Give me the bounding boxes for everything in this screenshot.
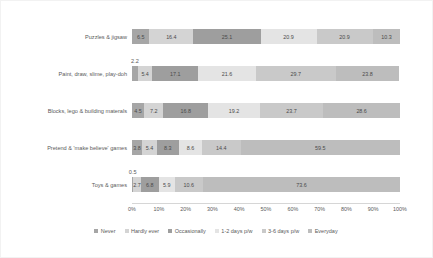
legend-label: Hardly ever xyxy=(131,228,159,234)
segment-callout-label: 0.5 xyxy=(129,169,137,175)
category-label: Paint, draw, slime, play-doh xyxy=(59,70,127,76)
bar-segment: 4.5 xyxy=(132,103,144,118)
x-axis-tick-label: 70% xyxy=(314,206,325,212)
stacked-bar: 4.57.216.819.223.728.6 xyxy=(132,103,400,118)
x-axis: 0%10%20%30%40%50%60%70%80%90%100% xyxy=(132,203,400,217)
bar-segment: 16.4 xyxy=(149,29,193,44)
legend-swatch-icon xyxy=(308,229,312,233)
x-axis-tick-label: 30% xyxy=(207,206,218,212)
x-axis-tick-label: 40% xyxy=(234,206,245,212)
legend-swatch-icon xyxy=(94,229,98,233)
stacked-bar: 2.76.85.910.673.6 xyxy=(132,177,400,192)
bar-row: Pretend & 'make believe' games3.85.48.38… xyxy=(132,140,400,155)
bar-segment: 14.4 xyxy=(202,140,241,155)
legend-item[interactable]: Never xyxy=(94,228,115,234)
bar-segment: 20.9 xyxy=(317,29,373,44)
legend-item[interactable]: Hardly ever xyxy=(125,228,160,234)
stacked-bar: 6.516.425.120.920.910.3 xyxy=(132,29,400,44)
bar-row: Toys & games0.52.76.85.910.673.6 xyxy=(132,177,400,192)
bar-row: Blocks, lego & building materals4.57.216… xyxy=(132,103,400,118)
x-axis-tick-label: 80% xyxy=(341,206,352,212)
bar-segment: 73.6 xyxy=(203,177,400,192)
legend-item[interactable]: Occasionally xyxy=(168,228,206,234)
bar-segment: 2.7 xyxy=(133,177,140,192)
x-axis-tick-label: 10% xyxy=(153,206,164,212)
legend-swatch-icon xyxy=(168,229,172,233)
bar-segment: 29.7 xyxy=(256,66,336,81)
bar-segment: 20.9 xyxy=(261,29,317,44)
chart-legend: NeverHardly everOccasionally1-2 days p/w… xyxy=(0,228,432,234)
legend-label: Never xyxy=(101,228,116,234)
legend-item[interactable]: 1-2 days p/w xyxy=(215,228,253,234)
legend-swatch-icon xyxy=(262,229,266,233)
legend-label: Everyday xyxy=(315,228,338,234)
x-axis-tick-label: 50% xyxy=(261,206,272,212)
legend-label: 1-2 days p/w xyxy=(221,228,252,234)
bar-segment: 21.6 xyxy=(198,66,256,81)
stacked-bar: 5.417.121.629.723.8 xyxy=(132,66,400,81)
x-axis-tick-label: 90% xyxy=(368,206,379,212)
bar-segment: 25.1 xyxy=(193,29,260,44)
bar-segment: 17.1 xyxy=(152,66,198,81)
legend-swatch-icon xyxy=(125,229,129,233)
x-axis-tick-label: 0% xyxy=(128,206,136,212)
bar-segment: 6.5 xyxy=(132,29,149,44)
bar-segment: 8.6 xyxy=(179,140,202,155)
x-axis-line xyxy=(132,203,400,204)
bar-segment: 8.3 xyxy=(157,140,179,155)
bar-segment: 28.6 xyxy=(323,103,400,118)
bar-segment: 5.4 xyxy=(142,140,156,155)
category-label: Toys & games xyxy=(92,181,127,187)
bar-segment: 3.8 xyxy=(132,140,142,155)
stacked-bar: 3.85.48.38.614.459.5 xyxy=(132,140,400,155)
segment-callout-label: 2.2 xyxy=(131,58,139,64)
bar-segment: 10.3 xyxy=(373,29,401,44)
bar-segment: 23.7 xyxy=(260,103,324,118)
x-axis-tick-label: 60% xyxy=(287,206,298,212)
bar-segment: 6.8 xyxy=(141,177,159,192)
bar-segment: 16.8 xyxy=(163,103,208,118)
bar-segment: 19.2 xyxy=(208,103,259,118)
x-axis-tick-label: 100% xyxy=(393,206,407,212)
bar-segment: 59.5 xyxy=(241,140,400,155)
plot-area: Puzzles & jigsaw6.516.425.120.920.910.3P… xyxy=(132,18,400,203)
bar-segment: 5.4 xyxy=(138,66,152,81)
bar-segment: 7.2 xyxy=(144,103,163,118)
bar-row: Paint, draw, slime, play-doh2.25.417.121… xyxy=(132,66,400,81)
bar-segment: 23.8 xyxy=(336,66,400,81)
legend-item[interactable]: Everyday xyxy=(308,228,337,234)
legend-label: Occasionally xyxy=(175,228,206,234)
category-label: Blocks, lego & building materals xyxy=(48,107,127,113)
legend-item[interactable]: 3-6 days p/w xyxy=(262,228,300,234)
category-label: Pretend & 'make believe' games xyxy=(47,144,127,150)
legend-swatch-icon xyxy=(215,229,219,233)
legend-label: 3-6 days p/w xyxy=(268,228,299,234)
category-label: Puzzles & jigsaw xyxy=(85,33,127,39)
x-axis-tick-label: 20% xyxy=(180,206,191,212)
bar-segment: 10.6 xyxy=(175,177,203,192)
bar-row: Puzzles & jigsaw6.516.425.120.920.910.3 xyxy=(132,29,400,44)
bar-segment: 5.9 xyxy=(159,177,175,192)
